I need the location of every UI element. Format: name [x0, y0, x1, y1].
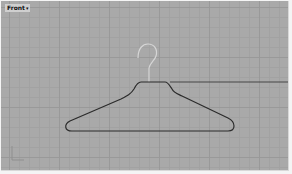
- world-axes-icon: [9, 141, 27, 163]
- front-viewport[interactable]: Front ▾: [1, 1, 289, 171]
- hanger-curves[interactable]: [1, 1, 288, 170]
- hanger-hook-curve[interactable]: [138, 44, 157, 82]
- hanger-body-curve[interactable]: [66, 82, 234, 131]
